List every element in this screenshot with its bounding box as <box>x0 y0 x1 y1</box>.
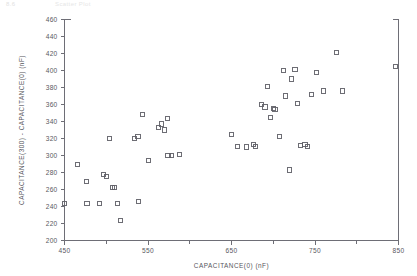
figure-container: 8.6 Scatter Plot 20022024026028030032034… <box>0 0 417 276</box>
data-point-marker <box>284 94 288 98</box>
y-tick-label: 320 <box>46 135 58 142</box>
data-points-group <box>62 51 397 223</box>
y-tick-label: 400 <box>46 67 58 74</box>
data-point-marker <box>163 128 167 132</box>
data-point-marker <box>299 143 303 147</box>
data-point-marker <box>321 89 325 93</box>
y-tick-label: 260 <box>46 186 58 193</box>
data-point-marker <box>340 89 344 93</box>
y-tick-label: 200 <box>46 237 58 244</box>
data-point-marker <box>140 113 144 117</box>
header-left-fragment: 8.6 <box>6 1 16 7</box>
data-point-marker <box>310 92 314 96</box>
data-point-marker <box>85 201 89 205</box>
x-axis-ticks: 450550650750850 <box>59 241 405 255</box>
data-point-marker <box>97 201 101 205</box>
x-tick-label: 850 <box>393 247 405 254</box>
data-point-marker <box>269 115 273 119</box>
data-point-marker <box>165 116 169 120</box>
data-point-marker <box>235 144 239 148</box>
y-tick-label: 340 <box>46 118 58 125</box>
data-point-marker <box>265 85 269 89</box>
y-tick-label: 220 <box>46 220 58 227</box>
data-point-marker <box>76 163 80 167</box>
y-tick-label: 380 <box>46 84 58 91</box>
y-tick-label: 360 <box>46 101 58 108</box>
y-tick-label: 240 <box>46 203 58 210</box>
header-right-fragment: Scatter Plot <box>55 1 91 7</box>
data-point-marker <box>393 64 397 68</box>
data-point-marker <box>287 168 291 172</box>
data-point-marker <box>315 70 319 74</box>
data-point-marker <box>147 159 151 163</box>
data-point-marker <box>137 199 141 203</box>
y-tick-label: 460 <box>46 16 58 23</box>
data-point-marker <box>293 68 297 72</box>
data-point-marker <box>277 135 281 139</box>
x-axis-title: CAPACITANCE(0) (nF) <box>194 262 269 270</box>
x-tick-label: 450 <box>59 247 71 254</box>
y-tick-label: 300 <box>46 152 58 159</box>
data-point-marker <box>107 136 111 140</box>
y-tick-label: 280 <box>46 169 58 176</box>
y-tick-label: 440 <box>46 33 58 40</box>
data-point-marker <box>115 201 119 205</box>
y-axis-ticks: 2002202402602803003203403603804004204404… <box>46 16 65 244</box>
data-point-marker <box>295 102 299 106</box>
y-axis-title: CAPACITANCE(300) - CAPACITANCE(0) (nF) <box>18 55 26 205</box>
y-tick-label: 420 <box>46 50 58 57</box>
x-tick-label: 650 <box>226 247 238 254</box>
data-point-marker <box>335 51 339 55</box>
data-point-marker <box>178 153 182 157</box>
scatter-plot: 2002202402602803003203403603804004204404… <box>0 0 417 276</box>
data-point-marker <box>281 68 285 72</box>
axes-group <box>65 20 399 241</box>
data-point-marker <box>244 145 248 149</box>
data-point-marker <box>229 132 233 136</box>
x-tick-label: 750 <box>309 247 321 254</box>
data-point-marker <box>84 180 88 184</box>
data-point-marker <box>290 77 294 81</box>
x-tick-label: 550 <box>142 247 154 254</box>
data-point-marker <box>118 218 122 222</box>
